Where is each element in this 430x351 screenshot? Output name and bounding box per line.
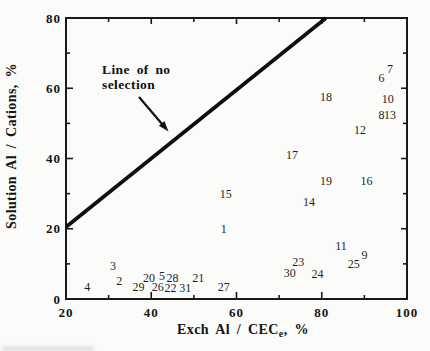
axis-tick-labels: 20406080100020406080 [46, 11, 418, 321]
scatter-plot: 20406080100020406080 1234567891011121314… [0, 0, 430, 351]
annotation-line-2: selection [102, 77, 155, 92]
y-axis-title: Solution Al / Cations, % [4, 63, 19, 229]
data-point-25: 25 [348, 257, 360, 271]
cropped-caption-artifact [2, 346, 94, 351]
data-points: 1234567891011121314151617181920212223242… [84, 62, 396, 296]
y-tick-label: 0 [54, 292, 62, 307]
data-point-9: 9 [361, 248, 367, 262]
x-tick-label: 80 [314, 305, 329, 320]
data-point-6: 6 [378, 71, 384, 85]
data-point-16: 16 [361, 174, 373, 188]
y-tick-label: 80 [46, 11, 61, 26]
data-point-7: 7 [387, 62, 393, 76]
data-point-10: 10 [382, 92, 394, 106]
annotation-line-1: Line of no [102, 62, 171, 77]
data-point-3: 3 [110, 259, 116, 273]
data-point-21: 21 [192, 271, 204, 285]
x-axis-title: Exch Al / CECe, % [177, 322, 309, 339]
data-point-15: 15 [220, 187, 232, 201]
x-axis-title-suffix: , % [284, 322, 309, 337]
reference-line-group [66, 18, 326, 227]
data-point-29: 29 [132, 280, 144, 294]
data-point-1: 1 [221, 222, 227, 236]
data-point-30: 30 [284, 266, 296, 280]
line-of-no-selection [66, 18, 326, 227]
data-point-12: 12 [354, 123, 366, 137]
x-tick-label: 20 [59, 305, 74, 320]
y-tick-label: 60 [46, 81, 61, 96]
data-point-19: 19 [320, 174, 332, 188]
data-point-27: 27 [218, 280, 230, 294]
y-tick-label: 20 [46, 221, 61, 236]
x-tick-label: 60 [229, 305, 244, 320]
data-point-2: 2 [116, 274, 122, 288]
y-tick-label: 40 [46, 151, 61, 166]
data-point-26: 26 [152, 280, 164, 294]
x-axis-title-main: Exch Al / CEC [177, 322, 279, 337]
data-point-17: 17 [286, 148, 298, 162]
figure-container: 20406080100020406080 1234567891011121314… [0, 0, 430, 351]
data-point-13: 13 [384, 108, 396, 122]
data-point-4: 4 [84, 280, 90, 294]
x-tick-label: 40 [144, 305, 159, 320]
x-tick-label: 100 [396, 305, 419, 320]
annotation-arrow-shaft [139, 97, 162, 124]
data-point-11: 11 [335, 239, 347, 253]
data-point-24: 24 [311, 267, 323, 281]
data-point-28: 28 [167, 271, 179, 285]
data-point-18: 18 [320, 90, 332, 104]
data-point-14: 14 [303, 195, 315, 209]
data-point-31: 31 [179, 281, 191, 295]
